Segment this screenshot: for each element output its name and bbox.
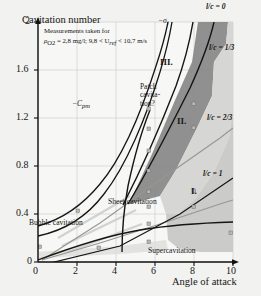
x-tick-2: 2 <box>73 265 78 276</box>
region-III-label: III. <box>160 57 173 67</box>
cpm-sub: pm <box>82 102 90 109</box>
sigma-i-label: −σi <box>158 16 169 26</box>
x-tick-0: 0 <box>33 265 38 276</box>
bubble-cavitation-label: Bubble cavitation <box>29 218 83 227</box>
region-I-label: I. <box>191 186 197 196</box>
lc-two-thirds-label: l/c = 2/3 <box>207 113 232 122</box>
cavitation-regime-chart: Cavitation number Angle of attack 2 1.6 … <box>0 0 261 296</box>
note-tail: < 10,7 m/s <box>116 37 147 44</box>
supercavitation-label: Supercavitation <box>148 246 196 255</box>
patch-line3: tion? <box>140 100 160 108</box>
patch-cavitation-label: Patch cavita- tion? <box>140 83 160 108</box>
y-tick-0p8: 0.8 <box>16 159 29 170</box>
x-axis-title: Angle of attack <box>172 276 237 287</box>
y-tick-1p2: 1.2 <box>16 111 29 122</box>
x-tick-8: 8 <box>190 265 195 276</box>
note-rest: = 2,8 mg/l; 9,8 < U <box>55 37 109 44</box>
x-tick-4: 4 <box>112 265 117 276</box>
sigma-i-text: −σ <box>158 16 167 25</box>
measurement-note-line1: Measurements taken for <box>44 26 147 36</box>
sigma-i-sub: i <box>167 19 169 26</box>
x-tick-10: 10 <box>226 265 236 276</box>
lc-one-label: l/c = 1 <box>203 169 223 178</box>
lc-one-third-label: l/c = 1/3 <box>209 43 234 52</box>
lc-zero-label: l/c = 0 <box>206 2 226 11</box>
cpm-label: −Cpm <box>72 99 90 109</box>
measurement-note-line2: ρO2 = 2,8 mg/l; 9,8 < Uref < 10,7 m/s <box>44 36 147 48</box>
cpm-text: −C <box>72 99 82 108</box>
region-II-label: II. <box>177 116 186 126</box>
x-tick-6: 6 <box>151 265 156 276</box>
y-axis-title: Cavitation number <box>22 14 100 25</box>
y-tick-2: 2 <box>25 15 30 26</box>
sheet-cavitation-label: Sheet cavitation <box>108 197 157 206</box>
y-tick-1p6: 1.6 <box>16 63 29 74</box>
y-tick-0: 0 <box>27 255 32 266</box>
measurement-note: Measurements taken for ρO2 = 2,8 mg/l; 9… <box>44 26 147 48</box>
y-tick-0p4: 0.4 <box>16 207 29 218</box>
